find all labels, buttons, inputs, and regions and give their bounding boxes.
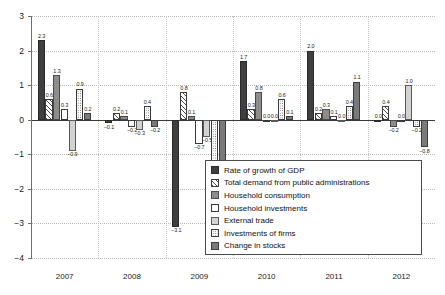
gridline-vertical — [166, 16, 167, 258]
bar-pubadmin-2012 — [382, 106, 389, 120]
bar-value-label: 0.8 — [255, 85, 262, 91]
bar-value-label: 0.1 — [121, 109, 128, 115]
bar-value-label: 0.1 — [188, 109, 195, 115]
x-axis-tick-label-2008: 2008 — [123, 272, 141, 281]
y-axis-tick — [28, 189, 32, 190]
legend-swatch-icon — [211, 204, 219, 212]
bar-value-label: 0.3 — [323, 102, 330, 108]
legend-item[interactable]: Investments of firms — [211, 227, 417, 240]
bar-stocks-2011 — [353, 82, 360, 120]
bar-exttrade-2008 — [136, 120, 143, 130]
y-axis-tick — [28, 51, 32, 52]
x-axis-tick-label-2011: 2011 — [325, 272, 342, 281]
bar-exttrade-2007 — [69, 120, 76, 151]
bar-hhinv-2011 — [330, 116, 337, 119]
bar-value-label: 0.1 — [330, 109, 337, 115]
bar-value-label: 0.6 — [46, 92, 53, 98]
y-axis-tick-label: −2 — [0, 184, 24, 194]
bar-value-label: 0.8 — [180, 85, 187, 91]
y-axis-tick-label: 0 — [0, 115, 24, 125]
bar-value-label: 0.4 — [144, 99, 151, 105]
bar-value-label: 0.2 — [84, 106, 91, 112]
legend-item[interactable]: Household consumption — [211, 189, 417, 202]
legend-item[interactable]: External trade — [211, 214, 417, 227]
legend-item[interactable]: Rate of growth of GDP — [211, 164, 417, 177]
x-axis-tick-label-2009: 2009 — [190, 272, 208, 281]
bar-value-label: 0.0 — [263, 113, 270, 119]
bar-hhcons-2012 — [390, 120, 397, 127]
bar-stocks-2012 — [421, 120, 428, 148]
y-axis-tick-label: 2 — [0, 46, 24, 56]
bar-gdp-2012 — [374, 120, 381, 122]
y-axis-tick — [28, 16, 32, 17]
bar-value-label: 0.3 — [248, 102, 255, 108]
bar-gdp-2010 — [240, 61, 247, 120]
legend-item-label: Change in stocks — [224, 241, 285, 250]
bar-value-label: 0.0 — [398, 113, 405, 119]
y-axis-tick-label: −4 — [0, 253, 24, 263]
gridline-horizontal — [31, 258, 435, 259]
bar-stocks-2010 — [286, 116, 293, 119]
bar-pubadmin-2007 — [45, 99, 52, 120]
bar-value-label: 0.3 — [61, 102, 68, 108]
y-axis-tick-label: −3 — [0, 218, 24, 228]
bar-value-label: 0.2 — [315, 106, 322, 112]
bar-value-label: −3.1 — [171, 227, 181, 233]
bar-value-label: −0.8 — [419, 148, 429, 154]
bar-value-label: 1.3 — [53, 68, 60, 74]
bar-hhcons-2011 — [322, 109, 329, 119]
bar-value-label: 1.7 — [240, 54, 247, 60]
bar-value-label: −0.7 — [194, 144, 204, 150]
y-axis-tick — [28, 258, 32, 259]
legend-item[interactable]: Change in stocks — [211, 240, 417, 253]
bar-exttrade-2011 — [338, 120, 345, 122]
bar-pubadmin-2008 — [113, 113, 120, 120]
bar-value-label: 0.6 — [278, 92, 285, 98]
bar-stocks-2009 — [219, 120, 226, 161]
legend-item[interactable]: Household investments — [211, 202, 417, 215]
bar-value-label: 0.9 — [76, 81, 83, 87]
bar-value-label: 0.4 — [382, 99, 389, 105]
y-axis-tick-label: 1 — [0, 80, 24, 90]
bar-stocks-2007 — [84, 113, 91, 120]
chart-legend: Rate of growth of GDPTotal demand from p… — [205, 160, 422, 255]
legend-item-label: Household consumption — [224, 191, 310, 200]
bar-chart: 2.30.61.30.3−0.90.90.2−0.10.20.1−0.2−0.3… — [0, 0, 445, 295]
bar-gdp-2007 — [38, 40, 45, 120]
bar-firminv-2007 — [76, 89, 83, 120]
bar-firminv-2011 — [346, 106, 353, 120]
bar-gdp-2009 — [172, 120, 179, 227]
bar-exttrade-2009 — [203, 120, 210, 137]
bar-hhcons-2008 — [120, 116, 127, 119]
bar-value-label: 0.2 — [113, 106, 120, 112]
bar-value-label: −0.3 — [135, 130, 145, 136]
y-axis-tick-label: −1 — [0, 149, 24, 159]
bar-firminv-2010 — [278, 99, 285, 120]
legend-item-label: External trade — [224, 216, 274, 225]
legend-swatch-icon — [211, 242, 219, 250]
legend-swatch-icon — [211, 179, 219, 187]
x-axis-tick-label-2012: 2012 — [392, 272, 410, 281]
y-axis-tick — [28, 154, 32, 155]
y-axis-tick-label: 3 — [0, 11, 24, 21]
bar-hhinv-2008 — [128, 120, 135, 127]
y-axis-tick — [28, 223, 32, 224]
x-axis-tick-label-2007: 2007 — [56, 272, 74, 281]
legend-swatch-icon — [211, 217, 219, 225]
legend-item-label: Total demand from public administrations — [224, 178, 369, 187]
bar-value-label: −0.1 — [104, 124, 114, 130]
bar-firminv-2012 — [413, 120, 420, 127]
bar-firminv-2008 — [144, 106, 151, 120]
legend-swatch-icon — [211, 191, 219, 199]
bar-value-label: 2.3 — [38, 33, 45, 39]
bar-value-label: −0.2 — [389, 127, 399, 133]
bar-hhcons-2009 — [188, 116, 195, 119]
bar-pubadmin-2009 — [180, 92, 187, 120]
legend-swatch-icon — [211, 166, 219, 174]
legend-item-label: Rate of growth of GDP — [224, 166, 304, 175]
legend-item[interactable]: Total demand from public administrations — [211, 177, 417, 190]
bar-hhinv-2007 — [61, 109, 68, 119]
bar-pubadmin-2011 — [315, 113, 322, 120]
bar-value-label: 1.1 — [353, 74, 360, 80]
bar-pubadmin-2010 — [247, 109, 254, 119]
